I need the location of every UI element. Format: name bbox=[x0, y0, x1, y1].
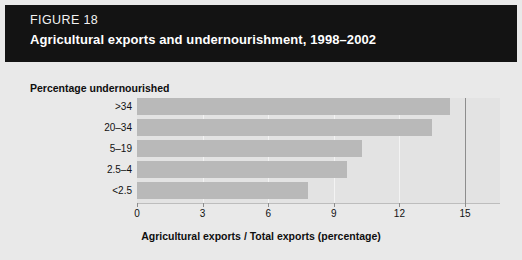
x-tick-label: 0 bbox=[117, 208, 157, 219]
x-tick-9 bbox=[334, 203, 335, 207]
chart-area: Percentage undernourished >3420–345–192.… bbox=[0, 62, 522, 260]
category-axis-labels: >3420–345–192.5–4<2.5 bbox=[10, 98, 132, 203]
x-axis-title: Agricultural exports / Total exports (pe… bbox=[0, 230, 522, 242]
bar-row bbox=[137, 161, 500, 178]
x-tick-6 bbox=[268, 203, 269, 207]
category-label: <2.5 bbox=[12, 182, 132, 199]
x-tick-label: 15 bbox=[445, 208, 485, 219]
x-tick-label: 6 bbox=[248, 208, 288, 219]
category-label: 2.5–4 bbox=[12, 161, 132, 178]
figure-header-bar: FIGURE 18 Agricultural exports and under… bbox=[5, 5, 517, 62]
bar-20–34 bbox=[137, 119, 432, 136]
bar-row bbox=[137, 182, 500, 199]
x-tick-0 bbox=[137, 203, 138, 207]
bar->34 bbox=[137, 98, 450, 115]
x-axis-line bbox=[137, 203, 500, 204]
x-tick-15 bbox=[465, 203, 466, 207]
figure-panel: FIGURE 18 Agricultural exports and under… bbox=[0, 0, 522, 260]
x-tick-label: 12 bbox=[379, 208, 419, 219]
figure-title: Agricultural exports and undernourishmen… bbox=[30, 32, 376, 47]
bar-row bbox=[137, 98, 500, 115]
figure-number-label: FIGURE 18 bbox=[30, 13, 98, 27]
category-label: >34 bbox=[12, 98, 132, 115]
bar-<2.5 bbox=[137, 182, 308, 199]
y-axis-title: Percentage undernourished bbox=[30, 82, 169, 94]
bar-5–19 bbox=[137, 140, 362, 157]
bar-row bbox=[137, 119, 500, 136]
category-label: 5–19 bbox=[12, 140, 132, 157]
bar-row bbox=[137, 140, 500, 157]
x-tick-12 bbox=[399, 203, 400, 207]
x-tick-label: 9 bbox=[314, 208, 354, 219]
category-label: 20–34 bbox=[12, 119, 132, 136]
x-tick-3 bbox=[203, 203, 204, 207]
x-tick-label: 3 bbox=[183, 208, 223, 219]
plot-area bbox=[137, 98, 500, 203]
bar-2.5–4 bbox=[137, 161, 347, 178]
